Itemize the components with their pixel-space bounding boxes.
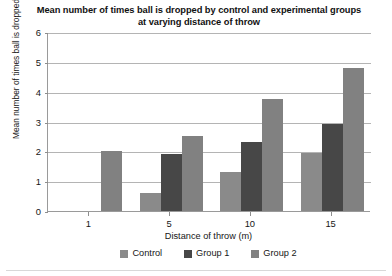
y-tick-mark [45, 152, 48, 153]
y-axis-title: Mean number of times ball is dropped [11, 0, 21, 153]
bar [182, 136, 203, 211]
x-tick-mark [250, 212, 251, 216]
gridline [48, 93, 371, 94]
bar [140, 193, 161, 211]
y-tick-mark [45, 123, 48, 124]
legend-item: Control [120, 249, 162, 258]
x-tick-mark [169, 212, 170, 216]
legend-item: Group 2 [251, 249, 296, 258]
y-tick-label: 0 [21, 207, 41, 216]
y-tick-mark [45, 212, 48, 213]
x-tick-label: 15 [306, 219, 356, 228]
x-tick-mark [88, 212, 89, 216]
chart-legend: ControlGroup 1Group 2 [47, 249, 370, 258]
gridline [48, 123, 371, 124]
x-tick-label: 1 [63, 219, 113, 228]
x-tick-mark [331, 212, 332, 216]
bar [220, 172, 241, 211]
y-tick-mark [45, 33, 48, 34]
y-tick-label: 5 [21, 58, 41, 67]
bar [101, 151, 122, 211]
chart-title: Mean number of times ball is dropped by … [34, 4, 364, 29]
bar [301, 153, 322, 211]
legend-item: Group 1 [184, 249, 229, 258]
x-axis-title: Distance of throw (m) [47, 231, 370, 241]
legend-label: Group 2 [263, 249, 296, 258]
y-tick-label: 6 [21, 28, 41, 37]
legend-label: Group 1 [196, 249, 229, 258]
legend-swatch [120, 250, 128, 258]
x-tick-label: 5 [144, 219, 194, 228]
bar-chart-figure: Mean number of times ball is dropped by … [0, 0, 392, 276]
y-tick-label: 2 [21, 147, 41, 156]
footer-divider [6, 270, 386, 271]
bar [161, 154, 182, 211]
y-tick-label: 4 [21, 88, 41, 97]
y-tick-mark [45, 93, 48, 94]
y-tick-mark [45, 63, 48, 64]
legend-swatch [251, 250, 259, 258]
plot-area: 0123456 151015 [47, 33, 370, 212]
bar [343, 68, 364, 211]
gridline [48, 33, 371, 34]
y-tick-label: 3 [21, 118, 41, 127]
bar [262, 99, 283, 211]
x-tick-label: 10 [225, 219, 275, 228]
legend-swatch [184, 250, 192, 258]
y-tick-mark [45, 182, 48, 183]
y-tick-label: 1 [21, 177, 41, 186]
gridline [48, 63, 371, 64]
bar [322, 124, 343, 211]
legend-label: Control [132, 249, 162, 258]
bar [241, 142, 262, 211]
